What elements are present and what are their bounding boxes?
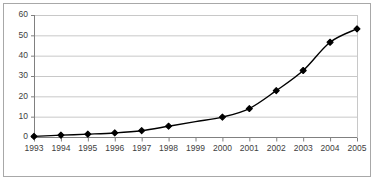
x-tick-label: 1999 — [186, 143, 205, 153]
x-tick-label: 2002 — [267, 143, 286, 153]
x-tick-label: 2001 — [240, 143, 259, 153]
y-tick-label: 10 — [19, 111, 29, 121]
y-tick-label: 0 — [23, 131, 28, 141]
y-tick-label: 60 — [19, 9, 29, 19]
line-chart: 0102030405060 19931994199519961997199819… — [0, 0, 381, 189]
y-tick-label: 20 — [19, 91, 29, 101]
data-point-1997 — [139, 128, 145, 134]
y-tick-label: 40 — [19, 50, 29, 60]
y-tick-label: 30 — [19, 70, 29, 80]
data-point-1998 — [166, 123, 172, 129]
chart-screenshot: 0102030405060 19931994199519961997199819… — [0, 0, 381, 189]
y-axis-ticks — [31, 16, 34, 138]
data-point-2005 — [354, 26, 360, 32]
x-tick-label: 1993 — [25, 143, 44, 153]
x-tick-label: 1998 — [159, 143, 178, 153]
data-point-2001 — [246, 106, 252, 112]
chart-canvas: 0102030405060 19931994199519961997199819… — [0, 0, 381, 189]
x-tick-label: 2005 — [348, 143, 367, 153]
x-tick-label: 2003 — [294, 143, 313, 153]
data-point-2000 — [219, 114, 225, 120]
x-tick-label: 2000 — [213, 143, 232, 153]
x-tick-label: 1994 — [51, 143, 70, 153]
x-tick-label: 2004 — [321, 143, 340, 153]
y-axis-tick-labels: 0102030405060 — [19, 9, 29, 141]
grid-lines — [34, 16, 357, 118]
data-series-line — [34, 29, 357, 137]
x-tick-label: 1995 — [78, 143, 97, 153]
y-tick-label: 50 — [19, 30, 29, 40]
x-axis-tick-labels: 1993199419951996199719981999200020012002… — [25, 143, 367, 153]
data-point-1993 — [31, 133, 37, 139]
data-point-1996 — [112, 130, 118, 136]
x-axis-ticks — [35, 138, 358, 142]
series-line-Series 1 — [34, 29, 357, 137]
data-point-1995 — [85, 131, 91, 137]
x-tick-label: 1997 — [132, 143, 151, 153]
x-tick-label: 1996 — [105, 143, 124, 153]
